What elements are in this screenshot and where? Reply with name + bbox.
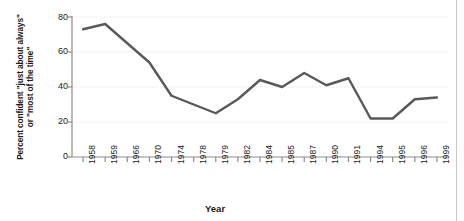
x-tick-label-1970: 1970 bbox=[153, 145, 163, 164]
x-tick-label-1966: 1966 bbox=[131, 145, 141, 164]
x-tick-label-1995: 1995 bbox=[397, 145, 407, 164]
x-tick-label-1978: 1978 bbox=[198, 145, 208, 164]
x-tick-label-1994: 1994 bbox=[375, 145, 385, 164]
x-tick-label-1996: 1996 bbox=[419, 145, 429, 164]
x-tick-label-1958: 1958 bbox=[87, 145, 97, 164]
x-tick-label-1984: 1984 bbox=[264, 145, 274, 164]
data-series-line bbox=[83, 24, 437, 119]
x-tick-label-1979: 1979 bbox=[220, 145, 230, 164]
x-tick-label-1990: 1990 bbox=[330, 145, 340, 164]
x-tick-label-1987: 1987 bbox=[308, 145, 318, 164]
chart-figure: Percent confident "just about always" or… bbox=[0, 0, 464, 221]
x-tick-label-1974: 1974 bbox=[176, 145, 186, 164]
x-tick-label-1999: 1999 bbox=[441, 145, 451, 164]
x-tick-label-1959: 1959 bbox=[109, 145, 119, 164]
x-axis-label: Year bbox=[205, 203, 225, 214]
x-tick-label-1982: 1982 bbox=[242, 145, 252, 164]
x-tick-label-1985: 1985 bbox=[286, 145, 296, 164]
x-tick-label-1991: 1991 bbox=[352, 145, 362, 164]
plot-area bbox=[0, 0, 464, 221]
